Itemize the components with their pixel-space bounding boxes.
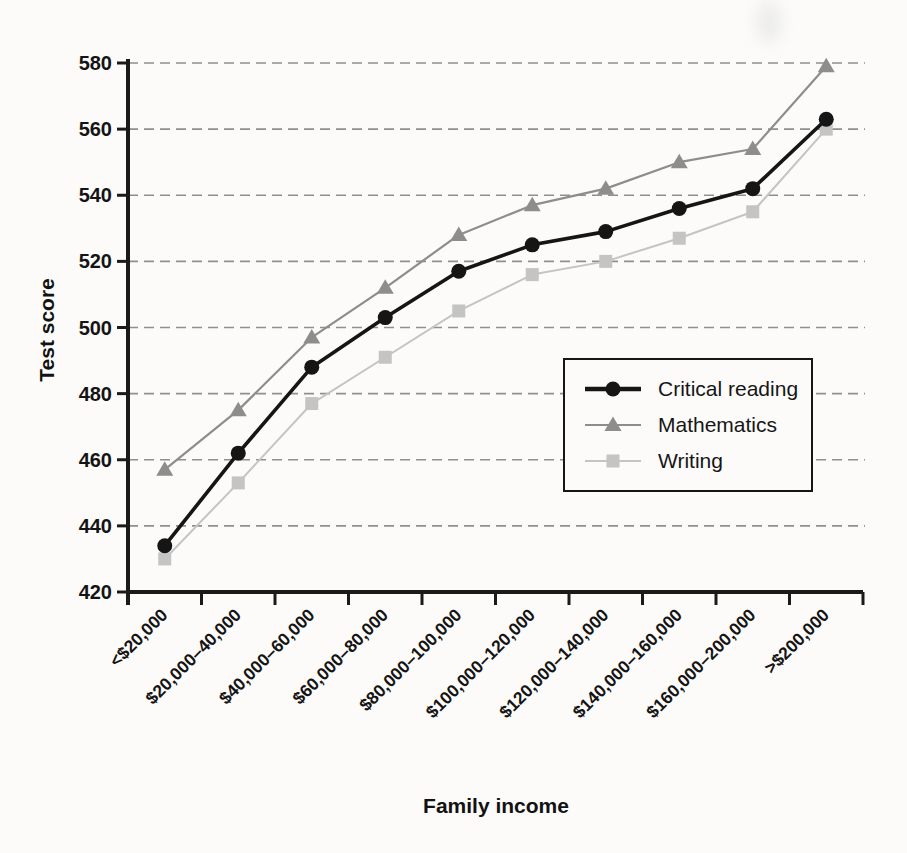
y-tick-label: 560: [79, 118, 112, 140]
data-point-critical-reading: [598, 224, 613, 239]
data-point-mathematics: [303, 329, 320, 344]
legend-label-mathematics: Mathematics: [658, 413, 777, 437]
data-point-writing: [526, 268, 539, 281]
data-point-writing: [305, 397, 318, 410]
data-point-critical-reading: [525, 237, 540, 252]
y-tick-label: 500: [79, 317, 112, 339]
data-point-mathematics: [818, 58, 835, 73]
x-tick-label: <$20,000: [105, 605, 171, 671]
data-point-critical-reading: [304, 360, 319, 375]
legend-swatch-marker: [605, 417, 622, 432]
legend-swatch-marker: [606, 382, 621, 397]
data-point-writing: [599, 255, 612, 268]
data-point-writing: [158, 552, 171, 565]
y-tick-label: 420: [79, 581, 112, 603]
data-point-critical-reading: [672, 201, 687, 216]
legend-swatch-marker: [607, 455, 620, 468]
x-axis-title: Family income: [423, 794, 569, 818]
y-tick-label: 580: [79, 52, 112, 74]
data-point-writing: [746, 205, 759, 218]
data-point-mathematics: [377, 279, 394, 294]
y-axis-title: Test score: [35, 278, 59, 382]
data-point-critical-reading: [819, 112, 834, 127]
y-tick-label: 480: [79, 383, 112, 405]
legend-label-writing: Writing: [658, 449, 723, 473]
x-tick-label: >$200,000: [760, 605, 833, 678]
scanned-chart-page: 420440460480500520540560580<$20,000$20,0…: [0, 0, 907, 853]
series-line-writing: [165, 129, 827, 559]
data-point-critical-reading: [451, 264, 466, 279]
data-point-critical-reading: [231, 446, 246, 461]
legend-label-critical-reading: Critical reading: [658, 377, 798, 401]
legend-item-mathematics: Mathematics: [583, 413, 803, 437]
data-point-writing: [379, 351, 392, 364]
data-point-critical-reading: [745, 181, 760, 196]
y-tick-label: 520: [79, 250, 112, 272]
legend-item-critical-reading: Critical reading: [583, 377, 803, 401]
data-point-critical-reading: [157, 538, 172, 553]
legend: Critical reading Mathematics Writing: [563, 358, 813, 492]
data-point-writing: [232, 476, 245, 489]
data-point-mathematics: [156, 461, 173, 476]
y-tick-label: 440: [79, 515, 112, 537]
data-point-writing: [673, 232, 686, 245]
data-point-critical-reading: [378, 310, 393, 325]
legend-marker-square-line: [583, 450, 643, 472]
legend-item-writing: Writing: [583, 449, 803, 473]
y-tick-label: 540: [79, 184, 112, 206]
legend-marker-circle-line: [583, 378, 643, 400]
y-tick-label: 460: [79, 449, 112, 471]
data-point-writing: [452, 304, 465, 317]
legend-marker-triangle-line: [583, 414, 643, 436]
